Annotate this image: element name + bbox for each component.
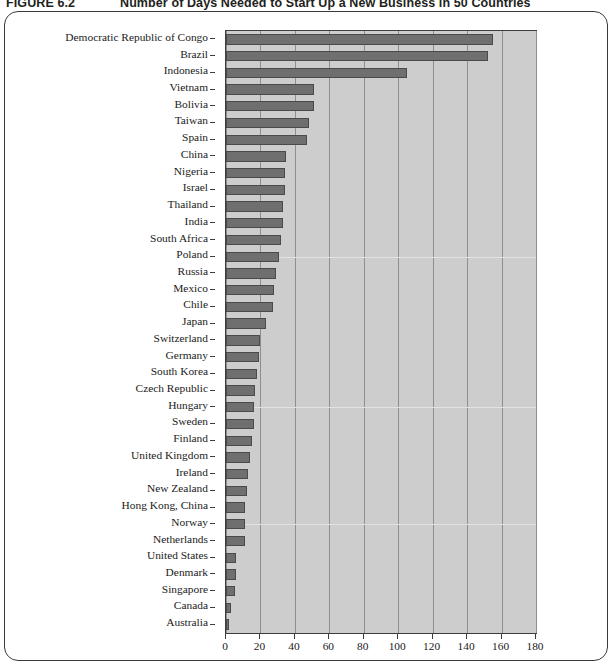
bars-container (226, 31, 536, 633)
category-tick (210, 89, 215, 90)
bar (226, 335, 260, 345)
bar (226, 302, 273, 312)
category-tick (210, 573, 215, 574)
bar (226, 201, 283, 211)
category-label: China (181, 149, 208, 160)
bar (226, 553, 236, 563)
category-tick (210, 540, 215, 541)
bar (226, 34, 493, 44)
bar (226, 51, 488, 61)
bar-chart: Democratic Republic of CongoBrazilIndone… (4, 11, 608, 661)
bar (226, 185, 285, 195)
bar (226, 436, 252, 446)
category-label: Germany (166, 350, 208, 361)
category-tick (210, 189, 215, 190)
value-tick-label: 80 (357, 640, 368, 652)
category-label: United States (147, 550, 208, 561)
category-tick (210, 507, 215, 508)
category-tick (210, 473, 215, 474)
category-tick (210, 557, 215, 558)
category-label: Australia (166, 617, 208, 628)
category-label: South Africa (150, 233, 208, 244)
category-label: Brazil (180, 49, 208, 60)
category-label: Israel (183, 182, 208, 193)
category-label: Nigeria (174, 166, 208, 177)
bar (226, 586, 235, 596)
category-label: Denmark (166, 567, 208, 578)
bar (226, 469, 248, 479)
category-label: Russia (178, 266, 208, 277)
category-label: Ireland (176, 467, 208, 478)
category-tick (210, 406, 215, 407)
category-label: Vietnam (169, 82, 208, 93)
category-tick (210, 523, 215, 524)
category-tick (210, 172, 215, 173)
category-tick (210, 356, 215, 357)
bar (226, 385, 255, 395)
category-tick (210, 72, 215, 73)
value-tick-label: 40 (288, 640, 299, 652)
category-label: Chile (183, 299, 208, 310)
category-tick (210, 206, 215, 207)
category-label: Bolivia (174, 99, 208, 110)
bar (226, 352, 259, 362)
figure-number: FIGURE 6.2 (6, 0, 75, 10)
value-tick-label: 120 (423, 640, 440, 652)
value-tick-label: 140 (458, 640, 475, 652)
category-label: Norway (171, 517, 208, 528)
category-label: Poland (176, 249, 208, 260)
category-label: Hungary (168, 400, 208, 411)
bar (226, 402, 254, 412)
value-tick (432, 634, 433, 639)
category-tick (210, 456, 215, 457)
value-tick (397, 634, 398, 639)
category-tick (210, 272, 215, 273)
category-tick (210, 624, 215, 625)
category-label: Finland (173, 433, 208, 444)
category-tick (210, 306, 215, 307)
bar (226, 419, 254, 429)
bar (226, 619, 229, 629)
category-label: Japan (182, 316, 208, 327)
category-tick (210, 55, 215, 56)
bar (226, 318, 266, 328)
category-tick (210, 122, 215, 123)
bar (226, 536, 245, 546)
value-tick (225, 634, 226, 639)
gridline-vertical (536, 31, 537, 633)
bar (226, 235, 281, 245)
value-tick-label: 100 (389, 640, 406, 652)
category-label: Spain (182, 132, 208, 143)
bar (226, 252, 279, 262)
category-label: Democratic Republic of Congo (65, 32, 208, 43)
category-label: Thailand (168, 199, 209, 210)
value-tick (466, 634, 467, 639)
category-tick (210, 490, 215, 491)
value-tick (294, 634, 295, 639)
bar (226, 218, 283, 228)
bar (226, 519, 245, 529)
value-tick (535, 634, 536, 639)
category-tick (210, 423, 215, 424)
category-tick (210, 239, 215, 240)
category-tick (210, 155, 215, 156)
figure-title: Number of Days Needed to Start Up a New … (120, 0, 531, 10)
bar (226, 151, 286, 161)
category-tick (210, 590, 215, 591)
category-tick (210, 38, 215, 39)
category-label: India (185, 216, 208, 227)
category-tick (210, 139, 215, 140)
category-label: Taiwan (175, 115, 208, 126)
category-label: Hong Kong, China (122, 500, 208, 511)
category-axis-labels: Democratic Republic of CongoBrazilIndone… (4, 30, 219, 634)
value-tick-label: 60 (323, 640, 334, 652)
category-tick (210, 607, 215, 608)
category-label: Czech Republic (136, 383, 208, 394)
category-label: Mexico (173, 283, 208, 294)
category-label: Indonesia (164, 65, 208, 76)
category-tick (210, 289, 215, 290)
value-tick (328, 634, 329, 639)
category-label: Canada (174, 600, 208, 611)
value-tick (259, 634, 260, 639)
bar (226, 101, 314, 111)
